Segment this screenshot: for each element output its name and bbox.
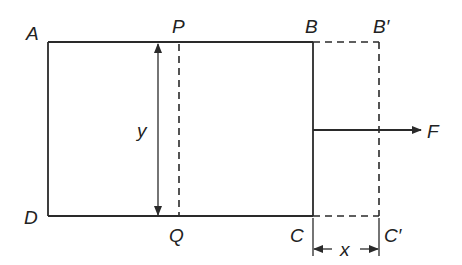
label-x: x bbox=[339, 239, 351, 260]
label-b: B bbox=[305, 16, 318, 37]
label-d: D bbox=[24, 207, 38, 228]
label-b-prime: B′ bbox=[373, 16, 391, 37]
label-c: C bbox=[290, 225, 304, 246]
block-abcd bbox=[48, 42, 313, 216]
label-q: Q bbox=[169, 225, 184, 246]
displaced-outline bbox=[313, 42, 379, 216]
label-c-prime: C′ bbox=[384, 225, 403, 246]
label-f: F bbox=[427, 121, 440, 142]
label-a: A bbox=[25, 23, 39, 44]
shear-diagram: A P B B′ y F D Q C C′ x bbox=[0, 0, 462, 265]
label-y: y bbox=[135, 120, 148, 141]
label-p: P bbox=[172, 16, 185, 37]
